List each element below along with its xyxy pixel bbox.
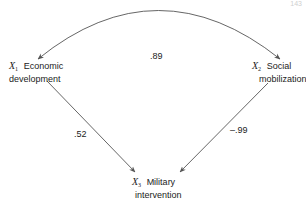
node-x1-label-line1: Economic xyxy=(24,61,64,71)
node-x1-label-line2: development xyxy=(9,74,63,84)
node-x2-label-line1: Social xyxy=(267,61,292,71)
path-x2-x3 xyxy=(180,83,268,172)
variable-x1: X1 xyxy=(9,60,18,71)
coefficient-x1-x2: .89 xyxy=(150,51,163,61)
variable-x3: X3 xyxy=(132,176,141,187)
path-diagram: 143 X1 Economic development X2 Social mo… xyxy=(0,0,306,199)
node-x2-social-mobilization: X2 Social mobilization xyxy=(252,61,306,84)
path-x1-x3 xyxy=(47,81,135,172)
variable-x2: X2 xyxy=(252,60,261,71)
coefficient-x1-x3: .52 xyxy=(74,129,87,139)
node-x3-military-intervention: X3 Military intervention xyxy=(132,177,182,199)
node-x3-label-line2: intervention xyxy=(135,190,182,199)
diagram-edges xyxy=(0,0,306,199)
node-x2-label-line2: mobilization xyxy=(259,74,306,84)
node-x3-label-line1: Military xyxy=(147,177,176,187)
node-x1-economic-development: X1 Economic development xyxy=(9,61,63,84)
coefficient-x2-x3: –.99 xyxy=(230,125,248,135)
